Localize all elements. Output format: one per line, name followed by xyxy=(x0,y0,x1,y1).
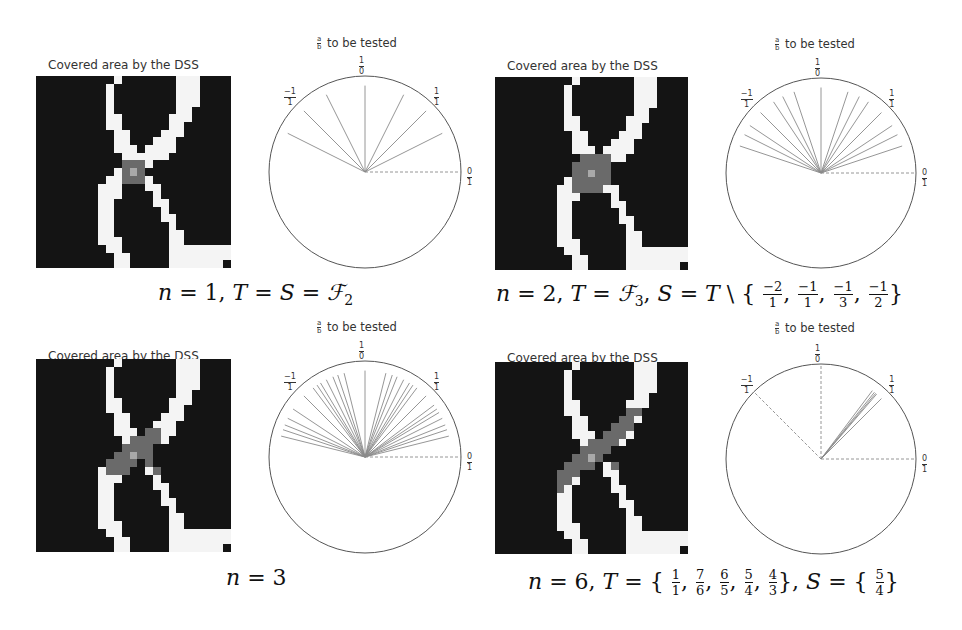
pixel-cell xyxy=(541,493,549,501)
pixel-cell xyxy=(580,477,588,485)
pixel-cell xyxy=(588,523,596,531)
polar-tick-label: 01 xyxy=(467,168,472,187)
pixel-cell xyxy=(503,431,511,439)
pixel-cell xyxy=(626,400,634,408)
pixel-cell xyxy=(626,485,634,493)
pixel-cell xyxy=(642,485,650,493)
pixel-cell xyxy=(611,439,619,447)
pixel-cell xyxy=(588,431,596,439)
pixel-cell xyxy=(588,493,596,501)
pixel-cell xyxy=(534,439,542,447)
pixel-cell xyxy=(603,400,611,408)
pixel-cell xyxy=(572,416,580,424)
polar-tick-label: 10 xyxy=(815,59,820,78)
pixel-cell xyxy=(541,470,549,478)
pixel-cell xyxy=(534,485,542,493)
pixel-cell xyxy=(541,393,549,401)
pixel-cell xyxy=(634,539,642,547)
polar-tick-label: 11 xyxy=(889,376,894,395)
pixel-cell xyxy=(619,400,627,408)
pixel-cell xyxy=(549,431,557,439)
pixel-cell xyxy=(541,362,549,370)
pixel-cell xyxy=(580,454,588,462)
pixel-cell xyxy=(534,470,542,478)
pixel-cell xyxy=(572,423,580,431)
pixel-cell xyxy=(680,462,688,470)
pixel-cell xyxy=(503,477,511,485)
pixel-cell xyxy=(518,454,526,462)
pixel-cell xyxy=(510,516,518,524)
pixel-cell xyxy=(611,523,619,531)
pixel-cell xyxy=(495,423,503,431)
pixel-cell xyxy=(549,523,557,531)
pixel-cell xyxy=(619,493,627,501)
pixel-cell xyxy=(564,423,572,431)
pixel-cell xyxy=(634,470,642,478)
pixel-cell xyxy=(642,423,650,431)
pixel-cell xyxy=(510,408,518,416)
pixel-cell xyxy=(572,462,580,470)
pixel-cell xyxy=(657,377,665,385)
pixel-cell xyxy=(580,493,588,501)
pixel-cell xyxy=(534,446,542,454)
pixel-cell xyxy=(649,362,657,370)
pixel-cell xyxy=(518,470,526,478)
pixel-cell xyxy=(634,531,642,539)
pixel-cell xyxy=(549,454,557,462)
pixel-cell xyxy=(673,393,681,401)
pixel-cell xyxy=(611,470,619,478)
pixel-cell xyxy=(595,485,603,493)
pixel-cell xyxy=(665,485,673,493)
pixel-cell xyxy=(619,546,627,554)
pixel-cell xyxy=(665,454,673,462)
pixel-cell xyxy=(557,362,565,370)
pixel-cell xyxy=(649,377,657,385)
pixel-cell xyxy=(626,423,634,431)
pixel-cell xyxy=(642,493,650,501)
pixel-cell xyxy=(673,370,681,378)
pixel-cell xyxy=(673,400,681,408)
pixel-cell xyxy=(619,462,627,470)
pixel-cell xyxy=(518,531,526,539)
pixel-cell xyxy=(680,508,688,516)
pixel-cell xyxy=(673,362,681,370)
pixel-cell xyxy=(588,508,596,516)
pixel-cell xyxy=(634,408,642,416)
pixel-cell xyxy=(665,408,673,416)
pixel-cell xyxy=(510,470,518,478)
pixel-cell xyxy=(588,462,596,470)
pixel-cell xyxy=(649,516,657,524)
pixel-cell xyxy=(549,500,557,508)
pixel-cell xyxy=(564,377,572,385)
pixel-cell xyxy=(642,408,650,416)
pixel-cell xyxy=(541,431,549,439)
polar-tick-label: −11 xyxy=(284,373,296,392)
pixel-cell xyxy=(595,416,603,424)
pixel-cell xyxy=(503,393,511,401)
pixel-cell xyxy=(510,493,518,501)
pixel-cell xyxy=(526,416,534,424)
pixel-cell xyxy=(595,377,603,385)
pixel-cell xyxy=(634,462,642,470)
pixel-cell xyxy=(580,446,588,454)
pixel-cell xyxy=(518,423,526,431)
pixel-cell xyxy=(541,416,549,424)
pixel-cell xyxy=(572,446,580,454)
polar-tick-label: 10 xyxy=(815,345,820,364)
pixel-cell xyxy=(572,531,580,539)
pixel-cell xyxy=(580,408,588,416)
pixel-cell xyxy=(657,477,665,485)
pixel-cell xyxy=(534,423,542,431)
pixel-cell xyxy=(534,531,542,539)
pixel-cell xyxy=(595,439,603,447)
pixel-cell xyxy=(634,454,642,462)
pixel-cell xyxy=(665,416,673,424)
pixel-cell xyxy=(564,370,572,378)
pixel-cell xyxy=(680,454,688,462)
pixel-cell xyxy=(665,362,673,370)
pixel-cell xyxy=(503,531,511,539)
pixel-cell xyxy=(518,393,526,401)
pixel-cell xyxy=(503,485,511,493)
pixel-cell xyxy=(580,516,588,524)
pixel-cell xyxy=(619,539,627,547)
